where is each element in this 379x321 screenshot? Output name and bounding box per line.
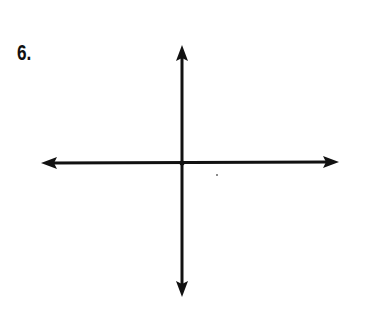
- x-axis: [41, 156, 339, 169]
- stray-dot: [216, 174, 218, 176]
- coordinate-axes-diagram: 6.: [0, 0, 379, 321]
- axes-graphic: [0, 0, 379, 321]
- origin-point: [180, 161, 185, 166]
- y-axis: [176, 45, 188, 297]
